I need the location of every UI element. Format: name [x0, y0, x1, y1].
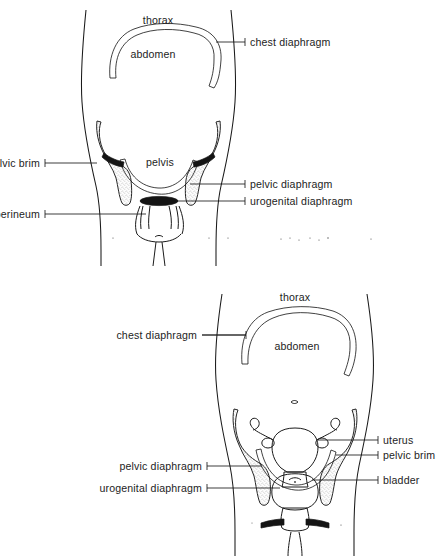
label-uterus: uterus	[383, 434, 413, 446]
label-abdomen: abdomen	[130, 48, 175, 60]
male-abdominopelvic-diagram: thorax abdomen chest diaphragm pelvis pe…	[0, 0, 447, 280]
label-pelvic-brim: pelvic brim	[0, 157, 40, 169]
pelvic-bones	[233, 409, 357, 505]
label-pelvic-diaphragm: pelvic diaphragm	[250, 178, 333, 190]
label-bladder: bladder	[383, 474, 420, 486]
label-thorax: thorax	[280, 291, 311, 303]
urogenital-diaphragm-shape	[140, 196, 178, 205]
label-chest-diaphragm: chest diaphragm	[250, 36, 331, 48]
stray-marks	[112, 237, 371, 240]
label-urogenital-diaphragm: urogenital diaphragm	[99, 482, 202, 494]
urogenital-diaphragm-shape	[261, 519, 329, 528]
perineum-region	[136, 206, 184, 266]
female-body-outline	[215, 294, 373, 556]
label-pelvic-diaphragm: pelvic diaphragm	[120, 460, 203, 472]
male-diagram-canvas: thorax abdomen chest diaphragm pelvis pe…	[0, 0, 447, 280]
label-chest-diaphragm: chest diaphragm	[116, 329, 197, 341]
female-diagram-canvas: thorax abdomen chest diaphragm uterus pe…	[0, 280, 447, 559]
label-perineum: perineum	[0, 208, 40, 220]
navel	[291, 401, 298, 404]
label-pelvic-brim: pelvic brim	[383, 449, 435, 461]
legs	[288, 532, 302, 556]
label-pelvis: pelvis	[146, 156, 174, 168]
female-abdominopelvic-diagram: thorax abdomen chest diaphragm uterus pe…	[0, 280, 447, 559]
female-leader-lines	[202, 331, 378, 492]
label-urogenital-diaphragm: urogenital diaphragm	[250, 195, 353, 207]
label-thorax: thorax	[143, 14, 174, 26]
anatomy-figure-page: thorax abdomen chest diaphragm pelvis pe…	[0, 0, 447, 559]
vaginal-outlet	[281, 508, 309, 531]
label-abdomen: abdomen	[274, 340, 319, 352]
